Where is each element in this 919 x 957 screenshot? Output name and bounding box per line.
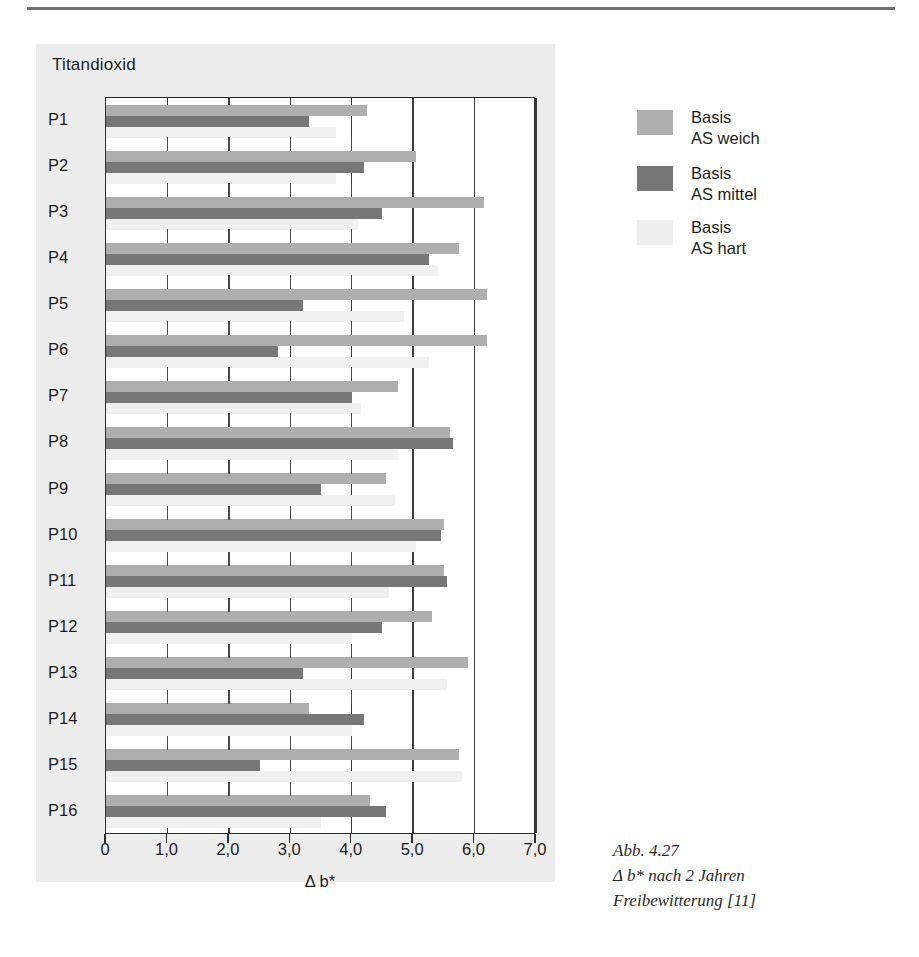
axis-tick-minor — [167, 321, 168, 335]
y-axis-label: P13 — [48, 663, 100, 682]
axis-tick-minor — [228, 460, 229, 474]
legend-swatch-weich — [637, 110, 673, 135]
bar-weich — [106, 657, 468, 668]
bar-group — [106, 282, 534, 328]
bar-mittel — [106, 806, 386, 817]
axis-tick-minor — [228, 644, 229, 658]
axis-tick-minor — [351, 413, 352, 427]
bar-group — [106, 559, 534, 605]
y-axis-label: P1 — [48, 110, 100, 129]
axis-tick-minor — [351, 367, 352, 381]
axis-tick-minor — [351, 736, 352, 750]
axis-tick-minor — [290, 367, 291, 381]
caption-line-3: Freibewitterung [11] — [613, 888, 903, 913]
page-top-rule — [27, 7, 895, 10]
legend: Basis AS weich Basis AS mittel Basis AS … — [613, 96, 894, 281]
bar-weich — [106, 335, 487, 346]
axis-tick-minor — [167, 413, 168, 427]
bar-weich — [106, 289, 487, 300]
bar-weich — [106, 473, 386, 484]
axis-tick-minor — [290, 137, 291, 151]
x-axis-tick-label: 2,0 — [216, 840, 239, 859]
y-axis-label: P12 — [48, 617, 100, 636]
bar-weich — [106, 565, 444, 576]
axis-tick-minor — [167, 275, 168, 289]
axis-tick-minor — [351, 137, 352, 151]
bar-mittel — [106, 714, 364, 725]
axis-tick-minor — [167, 229, 168, 243]
axis-tick-minor — [351, 275, 352, 289]
bar-weich — [106, 611, 432, 622]
axis-tick-minor — [351, 229, 352, 243]
y-axis-label: P14 — [48, 709, 100, 728]
bar-mittel — [106, 438, 453, 449]
bar-group — [106, 513, 534, 559]
legend-label-mittel: Basis AS mittel — [691, 163, 757, 205]
axis-tick-minor — [167, 460, 168, 474]
caption-line-1: Abb. 4.27 — [613, 838, 903, 863]
bar-weich — [106, 519, 444, 530]
y-axis-label: P3 — [48, 202, 100, 221]
bar-weich — [106, 703, 309, 714]
axis-tick-minor — [167, 183, 168, 197]
axis-tick-minor — [167, 782, 168, 796]
y-axis-label: P6 — [48, 340, 100, 359]
bar-hart — [106, 127, 336, 138]
bar-weich — [106, 151, 416, 162]
y-axis-label: P7 — [48, 386, 100, 405]
axis-tick-minor — [167, 367, 168, 381]
axis-tick-minor — [290, 598, 291, 612]
axis-tick-minor — [167, 690, 168, 704]
legend-swatch-hart — [637, 220, 673, 245]
bar-group — [106, 697, 534, 743]
axis-tick-minor — [351, 690, 352, 704]
axis-tick-minor — [228, 552, 229, 566]
axis-tick-minor — [290, 690, 291, 704]
axis-tick-minor — [228, 690, 229, 704]
bar-mittel — [106, 622, 382, 633]
y-axis-label: P9 — [48, 479, 100, 498]
axis-tick-minor — [228, 598, 229, 612]
bar-hart — [106, 265, 438, 276]
bar-mittel — [106, 668, 303, 679]
axis-tick-minor — [351, 506, 352, 520]
y-axis-label: P5 — [48, 294, 100, 313]
axis-tick-minor — [228, 413, 229, 427]
bar-group — [106, 328, 534, 374]
axis-tick-minor — [290, 275, 291, 289]
legend-label-weich-line1: Basis — [691, 108, 731, 126]
bar-hart — [106, 219, 358, 230]
axis-tick-minor — [290, 552, 291, 566]
axis-tick-minor — [351, 460, 352, 474]
x-axis-title: Δ b* — [305, 872, 335, 891]
axis-tick-minor — [228, 321, 229, 335]
x-axis-tick-label: 0 — [100, 840, 109, 859]
figure-caption: Abb. 4.27 Δ b* nach 2 Jahren Freibewitte… — [613, 838, 903, 913]
x-axis-tick-label: 5,0 — [401, 840, 424, 859]
bar-group — [106, 98, 534, 144]
axis-tick-minor — [351, 321, 352, 335]
bar-group — [106, 789, 534, 835]
bar-mittel — [106, 392, 352, 403]
x-axis-tick-label: 6,0 — [462, 840, 485, 859]
bar-group — [106, 467, 534, 513]
axis-tick-minor — [228, 506, 229, 520]
legend-label-hart: Basis AS hart — [691, 217, 746, 259]
bar-group — [106, 651, 534, 697]
bar-weich — [106, 749, 459, 760]
axis-tick-minor — [228, 782, 229, 796]
axis-tick-minor — [290, 183, 291, 197]
bar-mittel — [106, 346, 278, 357]
axis-tick-minor — [290, 644, 291, 658]
legend-swatch-mittel — [637, 166, 673, 191]
axis-tick-minor — [351, 644, 352, 658]
y-axis-label: P8 — [48, 432, 100, 451]
x-axis-tick-label: 4,0 — [339, 840, 362, 859]
legend-label-mittel-line2: AS mittel — [691, 185, 757, 203]
axis-tick-minor — [351, 598, 352, 612]
bar-mittel — [106, 254, 429, 265]
bar-weich — [106, 243, 459, 254]
axis-tick-minor — [228, 275, 229, 289]
bar-hart — [106, 817, 321, 828]
bar-hart — [106, 495, 395, 506]
